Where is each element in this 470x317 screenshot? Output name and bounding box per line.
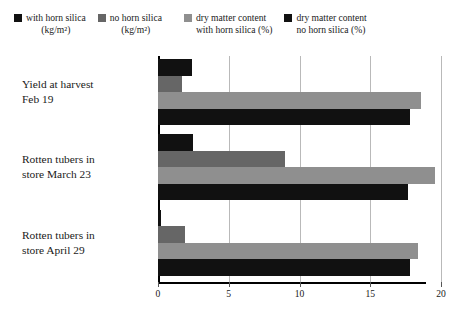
category-label-1-line1: Rotten tubers in — [22, 152, 152, 167]
legend-swatch-icon-3 — [284, 14, 292, 22]
tick-label-0: 0 — [156, 288, 161, 299]
legend-label-2-line1: dry matter content — [196, 12, 272, 24]
tick-label-10: 10 — [295, 288, 305, 299]
tick-label-5: 5 — [226, 288, 231, 299]
bar-group-1-series-0 — [158, 134, 193, 151]
category-label-2-line2: store April 29 — [22, 243, 152, 258]
legend-label-3-line1: dry matter content — [296, 12, 366, 24]
legend-label-1-line1: no horn silica — [110, 12, 162, 24]
legend-label-3-line2: no horn silica (%) — [296, 24, 366, 36]
legend-item-no-horn-silica: no horn silica (kg/m²) — [98, 12, 162, 36]
bar-group-2-series-1 — [158, 226, 185, 243]
bar-group-2-series-0 — [158, 210, 161, 227]
tick-mark-5 — [229, 282, 230, 287]
tick-mark-10 — [300, 282, 301, 287]
gridline-20 — [441, 56, 442, 282]
bar-group-0-series-0 — [158, 59, 192, 76]
bar-group-1-series-2 — [158, 167, 435, 184]
category-label-2: Rotten tubers instore April 29 — [22, 228, 152, 258]
bar-group-2-series-2 — [158, 243, 418, 260]
category-label-1: Rotten tubers instore March 23 — [22, 152, 152, 182]
legend-item-dry-matter-no-horn-silica: dry matter content no horn silica (%) — [284, 12, 366, 36]
legend-label-0-line2: (kg/m²) — [26, 24, 86, 36]
category-label-0-line2: Feb 19 — [22, 92, 152, 107]
tick-mark-20 — [441, 282, 442, 287]
legend-item-with-horn-silica: with horn silica (kg/m²) — [14, 12, 86, 36]
legend-swatch-icon-2 — [184, 14, 192, 22]
chart-legend: with horn silica (kg/m²) no horn silica … — [0, 0, 470, 48]
legend-swatch-icon-0 — [14, 14, 22, 22]
category-label-0-line1: Yield at harvest — [22, 77, 152, 92]
tick-label-20: 20 — [436, 288, 446, 299]
bar-group-0-series-3 — [158, 109, 410, 126]
category-label-1-line2: store March 23 — [22, 167, 152, 182]
legend-item-dry-matter-with-horn-silica: dry matter content with horn silica (%) — [184, 12, 272, 36]
bar-group-1-series-1 — [158, 151, 285, 168]
bar-group-2-series-3 — [158, 259, 410, 276]
tick-mark-15 — [370, 282, 371, 287]
tick-mark-0 — [158, 282, 159, 287]
bar-group-1-series-3 — [158, 184, 408, 201]
x-axis-line — [158, 282, 426, 284]
bar-group-0-series-1 — [158, 76, 182, 93]
category-label-0: Yield at harvestFeb 19 — [22, 77, 152, 107]
bar-group-0-series-2 — [158, 92, 421, 109]
legend-label-2: dry matter content with horn silica (%) — [196, 12, 272, 36]
legend-label-3: dry matter content no horn silica (%) — [296, 12, 366, 36]
legend-label-0: with horn silica (kg/m²) — [26, 12, 86, 36]
tick-label-15: 15 — [365, 288, 375, 299]
legend-label-0-line1: with horn silica — [26, 12, 86, 24]
legend-label-2-line2: with horn silica (%) — [196, 24, 272, 36]
plot-area — [158, 56, 441, 282]
legend-label-1-line2: (kg/m²) — [110, 24, 162, 36]
legend-swatch-icon-1 — [98, 14, 106, 22]
legend-label-1: no horn silica (kg/m²) — [110, 12, 162, 36]
category-label-2-line1: Rotten tubers in — [22, 228, 152, 243]
